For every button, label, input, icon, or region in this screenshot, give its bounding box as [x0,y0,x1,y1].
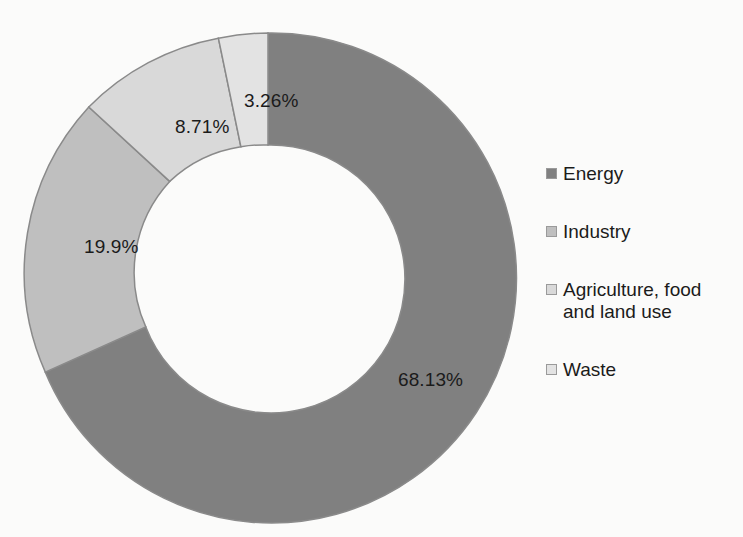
legend-item-industry[interactable]: Industry [546,221,736,243]
legend-item-energy[interactable]: Energy [546,163,736,185]
data-label-energy: 68.13% [398,369,463,391]
legend-label-waste: Waste [563,359,616,381]
legend-swatch-icon-energy [546,168,557,179]
legend-swatch-icon-industry [546,226,557,237]
legend-label-energy: Energy [563,163,623,185]
legend-item-waste[interactable]: Waste [546,359,736,381]
donut-plot-area: 68.13% 19.9% 8.71% 3.26% [22,12,522,527]
legend: Energy Industry Agriculture, food and la… [546,163,736,381]
donut-chart: 68.13% 19.9% 8.71% 3.26% Energy Industry… [0,0,743,537]
data-label-waste: 3.26% [244,90,298,112]
legend-swatch-icon-agriculture [546,284,557,295]
data-label-agriculture: 8.71% [175,116,229,138]
data-label-industry: 19.9% [84,236,138,258]
legend-label-agriculture: Agriculture, food and land use [563,279,736,323]
legend-swatch-icon-waste [546,364,557,375]
legend-item-agriculture[interactable]: Agriculture, food and land use [546,279,736,323]
legend-label-industry: Industry [563,221,631,243]
